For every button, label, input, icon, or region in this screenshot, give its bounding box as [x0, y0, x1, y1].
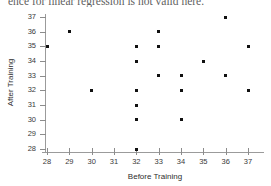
y-axis-title: After Training — [6, 51, 15, 115]
y-tick-mark — [40, 120, 46, 121]
y-tick-label-value: 34 — [18, 57, 36, 65]
y-tick-label-value: 35 — [18, 42, 36, 50]
y-tick-label: 31 — [18, 101, 36, 109]
y-tick-label: 28 — [18, 145, 36, 153]
data-point — [135, 45, 138, 48]
scatterplot-page: ence for linear regression is not valid … — [0, 0, 271, 186]
y-tick-mark — [40, 105, 46, 106]
y-tick-mark — [40, 90, 46, 91]
data-point — [247, 45, 250, 48]
y-tick-mark — [40, 17, 46, 18]
y-axis-line — [45, 14, 46, 153]
x-axis-line — [42, 152, 264, 153]
y-tick-label-value: 31 — [18, 101, 36, 109]
y-tick-label-value: 37 — [18, 13, 36, 21]
data-point — [157, 74, 160, 77]
data-point — [135, 148, 138, 151]
data-point — [202, 60, 205, 63]
data-point — [135, 60, 138, 63]
y-tick-mark — [40, 134, 46, 135]
y-tick-label: 29 — [18, 130, 36, 138]
x-tick-mark — [114, 148, 115, 155]
data-point — [180, 74, 183, 77]
data-point — [180, 89, 183, 92]
x-tick-label: 31 — [104, 158, 124, 166]
y-tick-mark — [40, 149, 46, 150]
x-tick-mark — [203, 148, 204, 155]
data-point — [157, 45, 160, 48]
data-point — [224, 74, 227, 77]
x-tick-label: 29 — [59, 158, 79, 166]
data-point — [90, 89, 93, 92]
x-tick-label: 37 — [238, 158, 258, 166]
y-tick-label: 33 — [18, 72, 36, 80]
y-tick-label-value: 36 — [18, 28, 36, 36]
y-tick-label: 30 — [18, 116, 36, 124]
y-tick-mark — [40, 32, 46, 33]
y-tick-label-value: 29 — [18, 130, 36, 138]
data-point — [157, 30, 160, 33]
y-tick-label: 36 — [18, 28, 36, 36]
x-tick-mark — [47, 148, 48, 155]
y-tick-label-value: 32 — [18, 86, 36, 94]
x-tick-mark — [159, 148, 160, 155]
data-point — [135, 89, 138, 92]
y-tick-label: 35 — [18, 42, 36, 50]
x-tick-label: 28 — [37, 158, 57, 166]
data-point — [135, 104, 138, 107]
y-tick-label: 37 — [18, 13, 36, 21]
y-tick-mark — [40, 61, 46, 62]
x-tick-mark — [181, 148, 182, 155]
x-axis-title: Before Training — [45, 172, 265, 181]
x-tick-label: 36 — [216, 158, 236, 166]
x-tick-label: 30 — [82, 158, 102, 166]
x-tick-mark — [92, 148, 93, 155]
data-point — [135, 118, 138, 121]
data-point — [180, 118, 183, 121]
data-point — [68, 30, 71, 33]
y-tick-label-value: 33 — [18, 72, 36, 80]
data-point — [46, 45, 49, 48]
x-tick-mark — [248, 148, 249, 155]
x-tick-label: 32 — [126, 158, 146, 166]
y-tick-mark — [40, 76, 46, 77]
x-tick-mark — [226, 148, 227, 155]
y-tick-label-value: 28 — [18, 145, 36, 153]
y-tick-label: 34 — [18, 57, 36, 65]
x-tick-mark — [69, 148, 70, 155]
x-tick-label: 34 — [171, 158, 191, 166]
y-tick-label-value: 30 — [18, 116, 36, 124]
x-tick-label: 35 — [193, 158, 213, 166]
data-point — [247, 89, 250, 92]
data-point — [224, 16, 227, 19]
x-tick-label: 33 — [149, 158, 169, 166]
scatter-chart: 28293031323334353637 2829303132333435363… — [0, 0, 271, 186]
y-tick-label: 32 — [18, 86, 36, 94]
